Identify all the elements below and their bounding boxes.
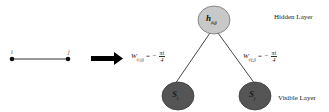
edge-hidden-si <box>175 33 210 84</box>
weight-left-sign: = − <box>146 52 157 60</box>
sj-subscript: j <box>254 96 255 101</box>
weight-right-fraction: πi4 <box>271 50 278 63</box>
node-j <box>66 57 71 62</box>
weight-left-denominator: 4 <box>160 57 163 63</box>
weight-left-subscript: (i,ij) <box>137 57 144 62</box>
visible-node-si-label: Si <box>172 89 178 101</box>
weight-right-subscript: (ij,j) <box>249 57 256 62</box>
visible-layer-label: Visible Layer <box>278 94 316 102</box>
visible-node-sj-label: Sj <box>249 89 255 101</box>
weight-left-numerator: πi <box>159 50 166 57</box>
weight-right-sign: = − <box>258 52 269 60</box>
weight-right-numerator: πi <box>271 50 278 57</box>
hidden-node-label: h(i,j) <box>206 13 217 25</box>
node-i <box>10 57 15 62</box>
si-subscript: i <box>177 96 178 101</box>
hidden-layer-label: Hidden Layer <box>274 13 313 21</box>
weight-right: W(ij,j) = − πi4 <box>243 50 277 63</box>
weight-left-fraction: πi4 <box>159 50 166 63</box>
node-i-label: i <box>11 49 13 55</box>
node-j-label: j <box>68 49 70 55</box>
right-arrow-icon <box>91 52 123 65</box>
hidden-node-subscript: (i,j) <box>211 20 217 25</box>
weight-left: W(i,ij) = − πi4 <box>131 50 165 63</box>
weight-right-denominator: 4 <box>272 57 275 63</box>
